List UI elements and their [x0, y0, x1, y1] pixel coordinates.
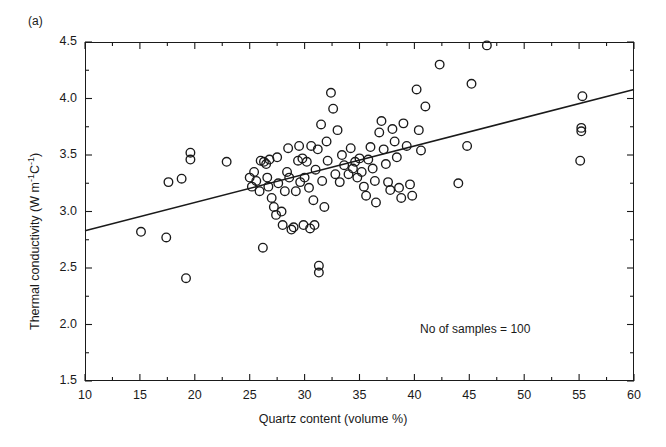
- data-point: [259, 243, 268, 252]
- x-tick-label: 40: [394, 388, 434, 402]
- data-point: [311, 165, 320, 174]
- x-tick-label: 35: [340, 388, 380, 402]
- data-point: [317, 120, 326, 129]
- data-point: [320, 203, 329, 212]
- data-point: [287, 225, 296, 234]
- data-point-markers: [137, 41, 587, 282]
- x-tick-label: 15: [120, 388, 160, 402]
- data-point: [371, 177, 380, 186]
- data-point: [329, 104, 338, 113]
- data-point: [284, 144, 293, 153]
- data-point: [309, 196, 318, 205]
- data-point: [412, 85, 421, 94]
- data-point: [372, 198, 381, 207]
- x-axis-title: Quartz content (volume %): [0, 412, 666, 426]
- data-point: [483, 41, 492, 50]
- data-point: [278, 221, 287, 230]
- y-tick-label: 3.5: [37, 147, 77, 161]
- data-point: [305, 183, 314, 192]
- data-point: [263, 173, 272, 182]
- data-point: [414, 126, 423, 135]
- data-point: [399, 119, 408, 128]
- x-tick-label: 30: [285, 388, 325, 402]
- data-point: [366, 143, 375, 152]
- y-tick-label: 4.0: [37, 91, 77, 105]
- data-point: [177, 174, 186, 183]
- data-point: [338, 151, 347, 160]
- data-point: [289, 223, 298, 232]
- data-point: [267, 194, 276, 203]
- scatter-plot-canvas: [0, 0, 666, 447]
- data-point: [327, 89, 336, 98]
- data-point: [388, 125, 397, 134]
- data-point: [578, 92, 587, 101]
- data-point: [273, 153, 282, 162]
- data-point: [137, 228, 146, 237]
- data-point: [164, 178, 173, 187]
- y-axis-exponent-2: -1: [26, 157, 36, 165]
- x-tick-label: 55: [559, 388, 599, 402]
- data-point: [318, 177, 327, 186]
- figure-panel-a: (a) 4.54.03.53.02.52.01.5 10152025303540…: [0, 0, 666, 447]
- data-point: [390, 137, 399, 146]
- data-point: [333, 126, 342, 135]
- data-point: [346, 144, 355, 153]
- y-tick-label: 4.5: [37, 34, 77, 48]
- x-tick-label: 20: [175, 388, 215, 402]
- x-tick-label: 10: [65, 388, 105, 402]
- data-point: [375, 128, 384, 137]
- data-point: [222, 157, 231, 166]
- y-tick-label: 3.0: [37, 204, 77, 218]
- data-point: [360, 182, 369, 191]
- data-point: [397, 194, 406, 203]
- data-point: [467, 80, 476, 89]
- data-point: [379, 145, 388, 154]
- data-point: [408, 191, 417, 200]
- data-point: [386, 186, 395, 195]
- x-tick-label: 45: [449, 388, 489, 402]
- data-point: [292, 187, 301, 196]
- data-point: [393, 153, 402, 162]
- data-point: [377, 117, 386, 126]
- data-point: [283, 168, 292, 177]
- data-point: [368, 164, 377, 173]
- data-point: [281, 187, 290, 196]
- y-axis-title-mid: C: [28, 165, 42, 174]
- data-point: [344, 170, 353, 179]
- y-axis-exponent-1: -1: [26, 174, 36, 182]
- data-point: [295, 142, 304, 151]
- data-point: [435, 60, 444, 69]
- data-point: [417, 146, 426, 155]
- data-point: [364, 155, 373, 164]
- x-tick-label: 60: [614, 388, 654, 402]
- data-point: [357, 168, 366, 177]
- data-point: [335, 178, 344, 187]
- data-point: [322, 137, 331, 146]
- y-axis-title-close: ): [28, 153, 42, 157]
- data-point: [353, 173, 362, 182]
- data-point: [250, 168, 259, 177]
- data-point: [463, 142, 472, 151]
- data-point: [323, 156, 332, 165]
- y-tick-label: 2.5: [37, 260, 77, 274]
- data-point: [362, 191, 371, 200]
- data-point: [255, 187, 264, 196]
- data-point: [421, 102, 430, 111]
- axis-tick-marks: [85, 42, 634, 381]
- data-point: [395, 183, 404, 192]
- data-point: [402, 142, 411, 151]
- x-tick-label: 25: [230, 388, 270, 402]
- y-axis-title-main: Thermal conductivity (W m: [28, 182, 42, 330]
- y-axis-title: Thermal conductivity (W m-1C-1): [26, 153, 42, 330]
- y-tick-label: 1.5: [37, 373, 77, 387]
- data-point: [454, 179, 463, 188]
- data-point: [182, 274, 191, 283]
- x-tick-label: 50: [504, 388, 544, 402]
- data-point: [406, 180, 415, 189]
- y-tick-label: 2.0: [37, 317, 77, 331]
- data-point: [331, 170, 340, 179]
- data-point: [162, 233, 171, 242]
- data-point: [382, 160, 391, 169]
- data-point: [576, 156, 585, 165]
- sample-count-annotation: No of samples = 100: [420, 322, 530, 336]
